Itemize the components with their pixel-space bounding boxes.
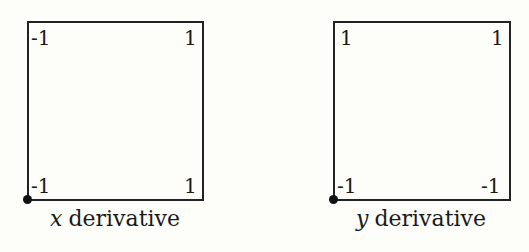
- x-corner-top-left: -1: [31, 28, 50, 48]
- y-corner-top-right: 1: [491, 28, 504, 48]
- origin-dot-icon: [329, 195, 338, 204]
- caption-variable: x: [50, 206, 62, 231]
- x-corner-top-right: 1: [184, 28, 197, 48]
- caption-label: derivative: [68, 206, 180, 231]
- y-corner-bottom-right: -1: [481, 176, 500, 196]
- caption-variable: y: [356, 206, 368, 231]
- x-corner-bottom-left: -1: [31, 176, 50, 196]
- x-derivative-caption: xderivative: [40, 207, 190, 231]
- y-corner-bottom-left: -1: [337, 176, 356, 196]
- x-corner-bottom-right: 1: [184, 176, 197, 196]
- y-derivative-caption: yderivative: [346, 207, 496, 231]
- origin-dot-icon: [23, 195, 32, 204]
- x-derivative-square: [27, 21, 204, 201]
- y-corner-top-left: 1: [340, 28, 353, 48]
- caption-label: derivative: [374, 206, 486, 231]
